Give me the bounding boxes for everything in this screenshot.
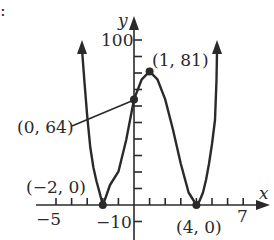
point-0-64 (130, 95, 138, 103)
point-label-1-81: (1, 81) (152, 50, 209, 70)
y-axis-label: y (117, 10, 128, 30)
x-tick-neg5: −5 (36, 209, 61, 229)
point-label-neg2-0: (−2, 0) (26, 177, 86, 197)
y-tick-neg10: −10 (96, 212, 132, 232)
leader-line (72, 100, 134, 126)
point-4-0 (192, 201, 200, 209)
point-label-4-0: (4, 0) (176, 217, 222, 237)
x-axis (36, 198, 270, 210)
x-tick-7: 7 (237, 206, 248, 226)
y-tick-100: 100 (101, 30, 133, 50)
prefix-mark: : (0, 0, 6, 20)
point-label-0-64: (0, 64) (17, 117, 74, 137)
x-axis-label: x (259, 183, 269, 203)
function-graph: : (0, 0, 274, 240)
curve-right-arrow-icon (212, 40, 222, 54)
curve-left-arrow-icon (77, 40, 87, 54)
point-neg2-0 (99, 201, 107, 209)
y-axis-arrow-icon (129, 16, 139, 30)
